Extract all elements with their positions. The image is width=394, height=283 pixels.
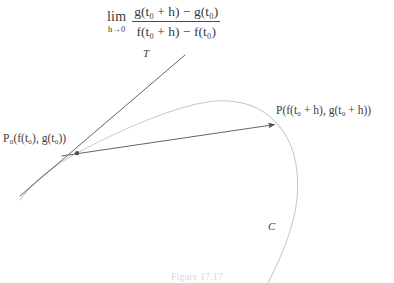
secant-line	[62, 125, 275, 156]
curve-c	[20, 101, 298, 283]
point-p0-marker	[75, 151, 79, 155]
tangent-line	[20, 55, 185, 196]
figure-container: lim h→0 g(t₀ + h) − g(t₀) f(t₀ + h) − f(…	[0, 0, 394, 283]
diagram-canvas	[0, 0, 394, 283]
